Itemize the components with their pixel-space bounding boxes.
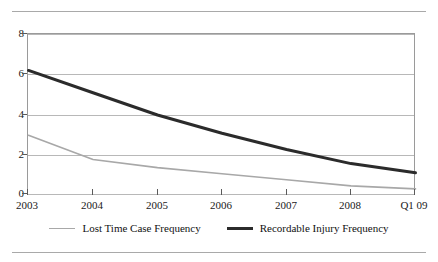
- legend-swatch-icon-recordable-injury: [227, 227, 253, 230]
- x-tickmark-2003: [27, 189, 28, 195]
- plot-area: [27, 33, 415, 195]
- x-tick-label-2005: 2005: [137, 199, 177, 211]
- chart-page: FIGURE 10.7 SAFETY TREND DATA 8 6 4 2 0 …: [0, 0, 438, 262]
- x-tickmark-2005: [157, 189, 158, 195]
- series-line-lost-time-case-frequency: [29, 135, 416, 189]
- legend-label-recordable-injury: Recordable Injury Frequency: [260, 222, 389, 235]
- x-tickmark-2007: [286, 189, 287, 195]
- x-tickmark-2004: [92, 189, 93, 195]
- x-tick-label-2006: 2006: [201, 199, 241, 211]
- chart-legend: Lost Time Case Frequency Recordable Inju…: [0, 222, 438, 235]
- y-tick-label-2: 2: [4, 149, 24, 160]
- top-divider-rule: [12, 11, 426, 12]
- y-tick-label-8: 8: [4, 28, 24, 39]
- y-tick-label-4: 4: [4, 109, 24, 120]
- x-tick-label-q1-09: Q1 09: [392, 199, 436, 211]
- x-tick-label-2007: 2007: [266, 199, 306, 211]
- legend-item-lost-time-case-frequency: Lost Time Case Frequency: [49, 222, 200, 235]
- legend-swatch-icon-lost-time: [49, 228, 75, 230]
- legend-item-recordable-injury-frequency: Recordable Injury Frequency: [227, 222, 389, 235]
- x-tick-label-2004: 2004: [72, 199, 112, 211]
- y-tick-label-0: 0: [4, 188, 24, 199]
- x-tickmark-q1-09: [414, 189, 415, 195]
- x-tick-label-2003: 2003: [7, 199, 47, 211]
- series-plot: [28, 34, 416, 196]
- figure-title: FIGURE 10.7 SAFETY TREND DATA: [0, 0, 438, 5]
- x-tickmark-2006: [221, 189, 222, 195]
- legend-label-lost-time: Lost Time Case Frequency: [82, 222, 200, 235]
- bottom-divider-rule: [12, 252, 426, 253]
- x-tick-label-2008: 2008: [330, 199, 370, 211]
- y-tick-label-6: 6: [4, 68, 24, 79]
- x-tickmark-2008: [350, 189, 351, 195]
